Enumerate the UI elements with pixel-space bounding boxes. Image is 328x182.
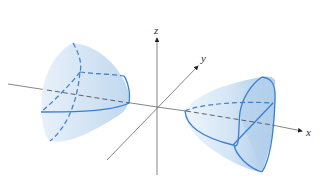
z-axis-label: z bbox=[153, 24, 159, 36]
x-axis-front bbox=[272, 125, 302, 131]
hyperboloid-diagram: z y x bbox=[0, 0, 328, 182]
right-sheet bbox=[185, 77, 275, 172]
y-axis-label: y bbox=[200, 52, 206, 64]
x-axis-label: x bbox=[305, 126, 311, 138]
left-sheet bbox=[41, 43, 130, 142]
x-axis-mid bbox=[157, 107, 186, 111]
